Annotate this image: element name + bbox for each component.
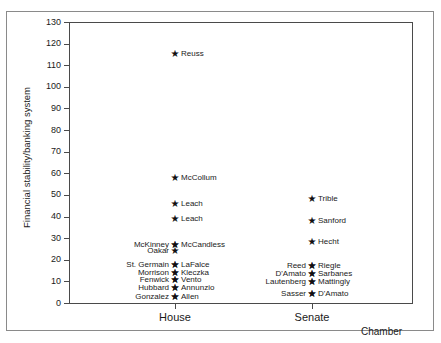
y-axis-tick	[64, 65, 69, 66]
y-axis-tick	[64, 130, 69, 131]
plot-right-border	[412, 22, 413, 304]
y-axis-tick-label: 130	[24, 18, 61, 27]
y-axis-tick-label-text: 0	[56, 299, 61, 308]
y-axis-tick	[64, 260, 69, 261]
data-point-label: Mattingly	[318, 278, 350, 286]
star-marker-icon: ★	[171, 214, 180, 224]
y-axis-tick	[64, 22, 69, 23]
data-point-label: Gonzalez	[135, 293, 169, 301]
y-axis-tick	[64, 44, 69, 45]
y-axis-tick-label-text: 90	[51, 104, 61, 113]
data-point-label: Oakar	[147, 247, 169, 255]
y-axis-tick-label-text: 20	[51, 255, 61, 264]
data-point-label: Hecht	[318, 238, 339, 246]
y-axis-tick-label-text: 50	[51, 190, 61, 199]
star-marker-icon: ★	[308, 277, 317, 287]
y-axis-tick-label: 10	[24, 277, 61, 286]
star-marker-icon: ★	[171, 49, 180, 59]
data-point-label: McCollum	[181, 174, 217, 182]
data-point-label: Trible	[318, 195, 338, 203]
scatter-plot-figure: 0102030405060708090100110120130 HouseSen…	[0, 0, 441, 343]
star-marker-icon: ★	[308, 216, 317, 226]
data-point-label: McCandless	[181, 241, 225, 249]
star-marker-icon: ★	[308, 237, 317, 247]
y-axis-tick	[64, 152, 69, 153]
data-point-label: Lautenberg	[266, 278, 306, 286]
data-point-label: Sanford	[318, 217, 346, 225]
star-marker-icon: ★	[171, 173, 180, 183]
x-axis-tick	[175, 304, 176, 309]
y-axis-tick	[64, 87, 69, 88]
y-axis-tick-label-text: 30	[51, 234, 61, 243]
star-marker-icon: ★	[171, 199, 180, 209]
y-axis-tick	[64, 281, 69, 282]
star-marker-icon: ★	[308, 194, 317, 204]
data-point-label: Reuss	[181, 50, 204, 58]
data-point-label: Leach	[181, 215, 203, 223]
y-axis-tick-label-text: 40	[51, 212, 61, 221]
figure-frame	[6, 11, 434, 331]
y-axis-tick	[64, 303, 69, 304]
y-axis-tick	[64, 217, 69, 218]
y-axis-tick	[64, 238, 69, 239]
data-point-label: Sasser	[281, 290, 306, 298]
y-axis-tick-label-text: 120	[46, 39, 61, 48]
x-axis-tick-label-senate: Senate	[295, 311, 330, 323]
y-axis-tick-label-text: 130	[46, 18, 61, 27]
y-axis-tick	[64, 195, 69, 196]
y-axis-line	[69, 22, 70, 304]
y-axis-tick-label: 0	[24, 299, 61, 308]
star-marker-icon: ★	[171, 292, 180, 302]
y-axis-tick-label-text: 10	[51, 277, 61, 286]
y-axis-tick-label-text: 110	[47, 61, 61, 70]
star-marker-icon: ★	[308, 289, 317, 299]
y-axis-tick-label-text: 80	[51, 126, 61, 135]
x-axis-tick-label-house: House	[159, 311, 191, 323]
x-axis-line	[69, 303, 412, 304]
y-axis-tick	[64, 173, 69, 174]
star-marker-icon: ★	[171, 246, 180, 256]
y-axis-tick-label-text: 60	[51, 169, 61, 178]
data-point-label: Allen	[181, 293, 199, 301]
x-axis-title: Chamber	[361, 326, 402, 337]
y-axis-tick-label: 120	[24, 39, 61, 48]
data-point-label: D'Amato	[318, 290, 348, 298]
y-axis-title: Financial stability/banking system	[21, 58, 32, 258]
y-axis-tick-label-text: 100	[46, 82, 61, 91]
x-axis-tick	[312, 304, 313, 309]
plot-top-border	[69, 22, 412, 23]
y-axis-tick-label-text: 70	[51, 147, 61, 156]
y-axis-tick	[64, 108, 69, 109]
data-point-label: Leach	[181, 200, 203, 208]
